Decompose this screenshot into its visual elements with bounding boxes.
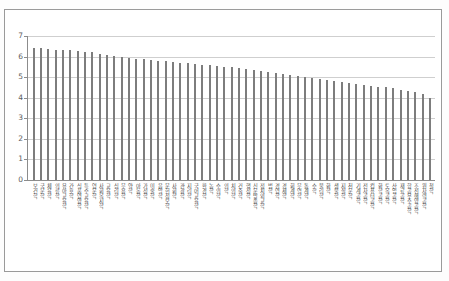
x-axis-label: 경영학	[273, 183, 278, 198]
bar	[289, 75, 291, 180]
x-axis-label: 지리학	[185, 183, 190, 198]
bar	[84, 52, 86, 180]
bar	[209, 65, 211, 180]
bar	[429, 98, 431, 180]
x-axis-label: 화학	[324, 183, 329, 193]
x-axis-label: 지질학	[339, 183, 344, 198]
y-axis-tick-4: 4	[18, 94, 23, 102]
x-axis-label: 전자공학	[361, 183, 366, 203]
x-axis-label: 산업공학	[390, 183, 395, 203]
bar	[297, 76, 299, 180]
x-axis-label: 경제학	[280, 183, 285, 198]
bar	[113, 56, 115, 180]
bar	[304, 77, 306, 180]
bar	[422, 94, 424, 180]
bar	[311, 78, 313, 180]
bar	[407, 91, 409, 180]
page-title-fragment	[4, 0, 164, 6]
bar	[121, 57, 123, 180]
bar	[62, 50, 64, 180]
x-axis-label: 사회복지학	[97, 183, 102, 208]
bar	[282, 74, 284, 180]
x-axis-label: 천문학	[346, 183, 351, 198]
x-axis-label: 토목공학	[383, 183, 388, 203]
bar	[348, 83, 350, 180]
bar	[55, 50, 57, 180]
y-axis-tick-7: 7	[18, 32, 23, 40]
bar	[400, 90, 402, 181]
bar-series	[27, 36, 435, 180]
bar	[172, 62, 174, 180]
bar	[355, 84, 357, 180]
bar	[392, 88, 394, 180]
chart-frame: 01234567 보건학국문학체육학의류학유아교육학간호학식품영양학특수교육학영…	[4, 9, 442, 272]
x-axis-label: 환경학	[200, 183, 205, 198]
bar	[150, 60, 152, 180]
x-axis-label: 법학	[266, 183, 271, 193]
x-axis-label: 유아교육학	[60, 183, 65, 208]
bar	[47, 49, 49, 180]
bar	[40, 48, 42, 180]
bar	[99, 54, 101, 181]
x-axis-label: 아동학	[134, 183, 139, 198]
bar	[69, 50, 71, 180]
y-axis-tick-5: 5	[18, 73, 23, 81]
bar	[333, 81, 335, 180]
x-axis-label: 통계학	[302, 183, 307, 198]
bar	[223, 67, 225, 180]
bar	[179, 63, 181, 180]
x-axis-labels: 보건학국문학체육학의류학유아교육학간호학식품영양학특수교육학영문학사회복지학교육…	[27, 183, 435, 279]
bar	[370, 86, 372, 180]
bar	[319, 79, 321, 180]
bar	[194, 64, 196, 180]
bar	[377, 87, 379, 180]
x-axis-label: 간호학	[68, 183, 73, 198]
bar	[231, 67, 233, 180]
bar	[260, 71, 262, 180]
x-axis-label: 약학	[126, 183, 131, 193]
x-axis-label: 체육학	[46, 183, 51, 198]
x-axis-label: 무역학	[295, 183, 300, 198]
bar	[135, 59, 137, 180]
bar	[267, 72, 269, 180]
bar	[363, 85, 365, 180]
x-axis-label: 교육학	[104, 183, 109, 198]
y-axis-tick-2: 2	[18, 135, 23, 143]
y-axis-tick-0: 0	[18, 176, 23, 184]
x-axis-label: 국어교육학	[192, 183, 197, 208]
bar	[238, 68, 240, 180]
x-axis-label: 가정학	[141, 183, 146, 198]
x-axis-label: 치의학	[229, 183, 234, 198]
x-axis-label: 보건학	[31, 183, 36, 198]
x-axis-label: 행정학	[244, 183, 249, 198]
bar	[165, 61, 167, 180]
y-axis-tick-6: 6	[18, 53, 23, 61]
chart-page: 01234567 보건학국문학체육학의류학유아교육학간호학식품영양학특수교육학영…	[0, 0, 449, 281]
x-axis-label: 수학	[310, 183, 315, 193]
plot-area: 01234567	[27, 36, 435, 181]
bar	[187, 63, 189, 180]
bar	[253, 70, 255, 180]
x-axis-label: 철학	[427, 183, 432, 193]
bar	[143, 59, 145, 180]
x-axis-label: 정치외교학	[258, 183, 263, 208]
x-axis-label: 기계공학	[354, 183, 359, 203]
x-axis-label: 식품영양학	[75, 183, 80, 208]
x-axis-label: 회계학	[288, 183, 293, 198]
bar	[275, 73, 277, 180]
x-axis-label: 화학공학	[376, 183, 381, 203]
bar	[414, 92, 416, 180]
x-axis-label: 물리학	[317, 183, 322, 198]
x-axis-line	[27, 180, 435, 181]
x-axis-label: 의학	[222, 183, 227, 193]
x-axis-label: 생물학	[332, 183, 337, 198]
bar	[91, 52, 93, 180]
x-axis-label: 미술학	[148, 183, 153, 198]
bar	[157, 61, 159, 180]
bar	[385, 87, 387, 180]
bar	[326, 80, 328, 180]
x-axis-label: 조선해양공학	[412, 183, 417, 213]
x-axis-label: 특수교육학	[82, 183, 87, 208]
bar	[201, 65, 203, 180]
x-axis-label: 무용학	[119, 183, 124, 198]
